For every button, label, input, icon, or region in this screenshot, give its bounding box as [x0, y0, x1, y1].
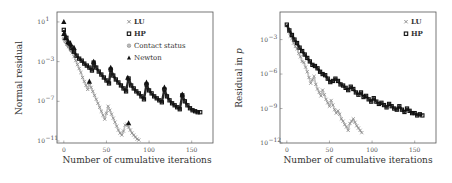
legend-item: LU — [404, 17, 421, 26]
x-axis-label: Number of cumulative iterations — [62, 155, 211, 165]
legend-item: HP — [127, 29, 146, 38]
chart-svg-right: 05010015010−310−610−910−12 Number of cum… — [226, 0, 452, 183]
triangle-marker-icon — [108, 65, 113, 70]
y-tick-label: 10 — [260, 36, 268, 43]
triangle-marker-icon — [61, 19, 66, 24]
y-axis-label: Residual in p — [234, 48, 244, 108]
y-tick-exponent: −12 — [269, 136, 282, 143]
x-tick-label: 150 — [186, 146, 198, 153]
legend-label: Contact status — [134, 42, 186, 50]
x-tick-label: 50 — [103, 146, 111, 153]
series-lu — [285, 24, 363, 134]
y-tick-exponent: −7 — [46, 94, 55, 101]
y-tick-label: 10 — [260, 105, 268, 112]
square-marker-icon — [199, 111, 202, 114]
series-newton — [61, 19, 185, 125]
y-tick-label: 10 — [37, 137, 45, 144]
y-tick-exponent: −9 — [269, 102, 278, 109]
x-tick-label: 150 — [409, 146, 421, 153]
legend: LUHPContact statusNewton — [127, 17, 186, 62]
legend-label: HP — [134, 29, 147, 38]
triangle-marker-icon — [127, 55, 131, 59]
y-tick-exponent: −3 — [269, 33, 278, 40]
y-tick-exponent: 1 — [46, 15, 50, 22]
y-tick-exponent: −11 — [46, 134, 59, 141]
y-tick-exponent: −6 — [269, 67, 278, 74]
x-axis-label: Number of cumulative iterations — [283, 155, 432, 165]
triangle-marker-icon — [126, 120, 131, 125]
x-marker-icon — [127, 20, 130, 23]
x-marker-icon — [404, 20, 407, 23]
x-tick-label: 50 — [326, 146, 334, 153]
y-tick-exponent: −3 — [46, 55, 55, 62]
triangle-marker-icon — [162, 85, 167, 90]
triangle-marker-icon — [87, 79, 92, 84]
chart-svg-left: 05010015010110−310−710−11 Number of cumu… — [0, 0, 226, 183]
plot-area — [61, 19, 202, 142]
y-tick-label: 10 — [37, 58, 45, 65]
y-axis-label-var: p — [234, 48, 244, 54]
square-marker-icon — [404, 32, 407, 35]
legend-item: HP — [404, 29, 423, 38]
y-tick-label: 10 — [37, 18, 45, 25]
legend-item: Newton — [127, 54, 162, 62]
legend-item: Contact status — [127, 42, 186, 50]
y-tick-label: 10 — [37, 97, 45, 104]
y-tick-label: 10 — [260, 70, 268, 77]
y-axis-label-text: Residual in — [234, 54, 244, 108]
axis-ticks: 05010015010−310−610−910−12 — [260, 33, 420, 153]
chart-normal-residual: 05010015010110−310−710−11 Number of cumu… — [0, 0, 226, 183]
legend: LUHP — [404, 17, 423, 38]
legend-label: HP — [411, 29, 424, 38]
x-tick-label: 100 — [143, 146, 155, 153]
legend-label: Newton — [134, 54, 162, 62]
triangle-marker-icon — [144, 80, 149, 85]
square-marker-icon — [127, 32, 130, 35]
x-tick-label: 0 — [62, 146, 66, 153]
legend-label: LU — [134, 17, 145, 26]
x-tick-label: 0 — [285, 146, 289, 153]
y-axis-label: Normal residual — [14, 41, 24, 115]
plot-area — [285, 23, 424, 134]
legend-label: LU — [411, 17, 422, 26]
x-tick-label: 100 — [366, 146, 378, 153]
y-tick-label: 10 — [260, 139, 268, 146]
legend-item: LU — [127, 17, 144, 26]
chart-residual-in-p: 05010015010−310−610−910−12 Number of cum… — [226, 0, 452, 183]
